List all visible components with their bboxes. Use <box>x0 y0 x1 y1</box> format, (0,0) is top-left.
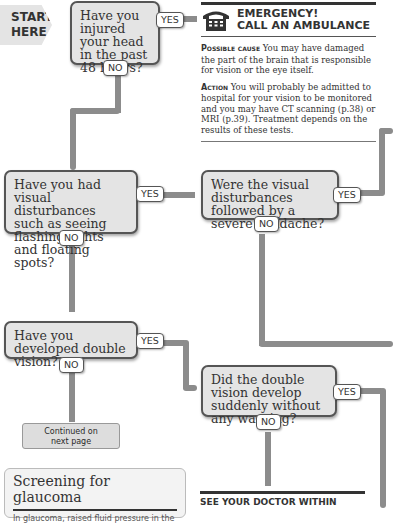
connector <box>379 128 393 134</box>
continued-line2: next page <box>23 437 119 447</box>
divider <box>201 36 376 37</box>
emergency-subtitle: CALL AN AMBULANCE <box>237 20 370 32</box>
continued-next-page[interactable]: Continued on next page <box>22 423 120 449</box>
glaucoma-text: In glaucoma, raised fluid pressure in th… <box>13 514 177 523</box>
start-line2: HERE <box>0 25 52 40</box>
question-head-injury: Have you injured your head in the past 4… <box>70 1 160 65</box>
question-double-vision: Have you developed double vision? <box>4 321 138 359</box>
divider <box>201 141 376 142</box>
connector <box>265 432 271 486</box>
yes-label: YES <box>333 187 361 203</box>
connector <box>259 234 265 346</box>
continued-line1: Continued on <box>23 427 119 437</box>
connector <box>70 108 120 114</box>
glaucoma-title: Screening for glaucoma <box>13 473 177 505</box>
yes-label: YES <box>136 186 164 202</box>
start-here-marker: START HERE <box>0 5 52 45</box>
telephone-icon <box>201 9 231 31</box>
action-label: Action <box>201 83 228 92</box>
yes-label: YES <box>333 384 361 400</box>
yes-label: YES <box>136 333 164 349</box>
action-text: You will probably be admitted to hospita… <box>201 82 375 135</box>
connector <box>183 385 197 391</box>
connector <box>183 340 189 390</box>
glaucoma-box: Screening for glaucoma In glaucoma, rais… <box>4 468 186 518</box>
cause-label: Possible cause <box>201 44 260 53</box>
see-doctor-panel: SEE YOUR DOCTOR WITHIN <box>200 491 365 507</box>
no-label: NO <box>103 60 128 76</box>
question-visual-disturbances: Have you had visual disturbances such as… <box>4 170 138 234</box>
yes-label: YES <box>156 12 184 28</box>
divider <box>13 509 177 511</box>
no-label: NO <box>254 216 279 232</box>
question-severe-headache: Were the visual disturbances followed by… <box>201 170 339 220</box>
start-line1: START <box>0 5 52 25</box>
connector <box>259 341 393 347</box>
connector <box>69 370 75 422</box>
connector <box>70 108 76 170</box>
divider <box>200 491 365 494</box>
no-label: NO <box>256 414 281 430</box>
connector <box>379 128 385 196</box>
question-sudden-double-vision: Did the double vision develop suddenly w… <box>201 365 337 417</box>
question-text: Have you had visual disturbances such as… <box>14 177 107 270</box>
emergency-panel: EMERGENCY! CALL AN AMBULANCE Possible ca… <box>201 2 376 142</box>
no-label: NO <box>59 230 84 246</box>
no-label: NO <box>59 357 84 373</box>
connector <box>380 388 386 508</box>
see-doctor-text: SEE YOUR DOCTOR WITHIN <box>200 497 365 507</box>
